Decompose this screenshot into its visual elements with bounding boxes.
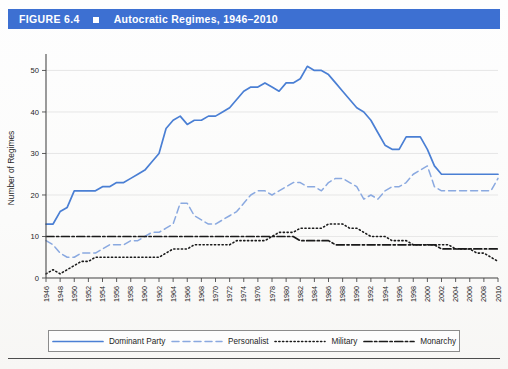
series-group xyxy=(46,66,498,274)
dashed-line-icon xyxy=(171,337,223,346)
figure-number-label: FIGURE 6.4 xyxy=(19,13,80,25)
svg-text:1948: 1948 xyxy=(56,286,65,302)
svg-text:1958: 1958 xyxy=(126,286,135,302)
svg-text:1984: 1984 xyxy=(310,286,319,302)
legend-label: Military xyxy=(331,337,357,346)
figure-header-bar: FIGURE 6.4 Autocratic Regimes, 1946–2010 xyxy=(8,9,500,29)
legend-item-dominant-party[interactable]: Dominant Party xyxy=(52,337,165,346)
svg-text:1972: 1972 xyxy=(225,286,234,302)
svg-text:20: 20 xyxy=(31,191,39,200)
svg-text:1976: 1976 xyxy=(253,286,262,302)
svg-text:2010: 2010 xyxy=(494,286,503,302)
svg-text:1962: 1962 xyxy=(155,286,164,302)
figure-title: Autocratic Regimes, 1946–2010 xyxy=(114,13,278,25)
legend-label: Personalist xyxy=(228,337,269,346)
square-bullet-icon xyxy=(93,17,99,23)
series-line-monarchy xyxy=(46,236,498,248)
svg-text:1980: 1980 xyxy=(282,286,291,302)
svg-text:1974: 1974 xyxy=(239,286,248,302)
series-line-military xyxy=(46,224,498,274)
svg-text:1990: 1990 xyxy=(352,286,361,302)
svg-text:1988: 1988 xyxy=(338,286,347,302)
legend-item-military[interactable]: Military xyxy=(274,337,357,346)
axes-group xyxy=(42,54,498,282)
legend-label: Monarchy xyxy=(420,337,456,346)
svg-text:1964: 1964 xyxy=(169,286,178,302)
svg-text:0: 0 xyxy=(35,274,39,283)
svg-text:2000: 2000 xyxy=(423,286,432,302)
axis-labels-group: 01020304050Number of Regimes194619481950… xyxy=(6,66,503,302)
svg-text:1992: 1992 xyxy=(366,286,375,302)
svg-text:1960: 1960 xyxy=(140,286,149,302)
chart-plot-area: 01020304050Number of Regimes194619481950… xyxy=(0,32,508,332)
solid-line-icon xyxy=(52,337,104,346)
svg-text:1970: 1970 xyxy=(211,286,220,302)
svg-text:1946: 1946 xyxy=(42,286,51,302)
chart-legend: Dominant PartyPersonalistMilitaryMonarch… xyxy=(48,330,460,352)
dotted-line-icon xyxy=(274,337,326,346)
series-line-dominant-party xyxy=(46,66,498,224)
svg-text:2008: 2008 xyxy=(479,286,488,302)
svg-text:40: 40 xyxy=(31,108,39,117)
dashdot-line-icon xyxy=(363,337,415,346)
svg-text:1978: 1978 xyxy=(268,286,277,302)
svg-text:2006: 2006 xyxy=(465,286,474,302)
svg-text:1996: 1996 xyxy=(395,286,404,302)
legend-label: Dominant Party xyxy=(109,337,165,346)
svg-text:2004: 2004 xyxy=(451,286,460,302)
svg-text:Number of Regimes: Number of Regimes xyxy=(6,131,16,205)
svg-text:50: 50 xyxy=(31,66,39,75)
svg-text:1966: 1966 xyxy=(183,286,192,302)
svg-text:1956: 1956 xyxy=(112,286,121,302)
svg-text:1950: 1950 xyxy=(70,286,79,302)
chart-svg: 01020304050Number of Regimes194619481950… xyxy=(0,32,508,332)
figure-container: FIGURE 6.4 Autocratic Regimes, 1946–2010… xyxy=(0,0,508,369)
svg-text:1994: 1994 xyxy=(381,286,390,302)
legend-item-personalist[interactable]: Personalist xyxy=(171,337,269,346)
svg-text:10: 10 xyxy=(31,232,39,241)
svg-text:1998: 1998 xyxy=(409,286,418,302)
svg-text:1954: 1954 xyxy=(98,286,107,302)
svg-text:30: 30 xyxy=(31,149,39,158)
source-note-cropped xyxy=(10,362,490,369)
series-line-personalist xyxy=(46,166,498,257)
svg-text:1982: 1982 xyxy=(296,286,305,302)
svg-text:2002: 2002 xyxy=(437,286,446,302)
svg-text:1968: 1968 xyxy=(197,286,206,302)
svg-text:1952: 1952 xyxy=(84,286,93,302)
bottom-divider xyxy=(8,358,500,359)
legend-item-monarchy[interactable]: Monarchy xyxy=(363,337,456,346)
svg-text:1986: 1986 xyxy=(324,286,333,302)
